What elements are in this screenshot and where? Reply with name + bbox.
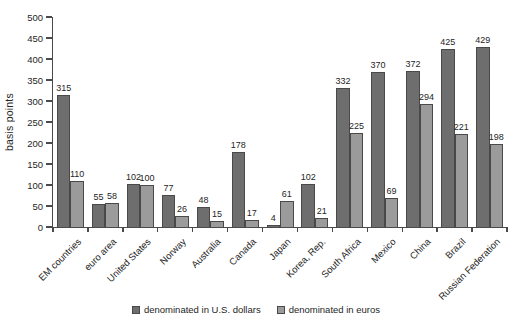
bar-usd	[301, 184, 315, 227]
value-label: 4	[271, 213, 276, 223]
y-axis-tick-label: 50	[32, 201, 43, 212]
x-axis-label: Brazil	[443, 236, 468, 261]
bar-chart: basis points EM countrieseuro areaUnited…	[0, 0, 512, 332]
bar-usd	[336, 88, 350, 227]
x-axis-tick	[52, 227, 53, 232]
y-axis-tick-label: 0	[38, 222, 43, 233]
y-axis-tick	[46, 163, 52, 164]
value-label: 61	[282, 189, 292, 199]
y-axis-tick-label: 450	[27, 33, 43, 44]
x-axis-labels: EM countrieseuro areaUnited StatesNorway…	[53, 227, 507, 297]
x-axis-tick	[402, 227, 403, 232]
y-axis-tick	[46, 16, 52, 17]
legend-swatch-icon	[277, 306, 285, 314]
x-axis-tick	[297, 227, 298, 232]
bar-usd	[441, 49, 455, 228]
bar-eur	[490, 144, 504, 227]
bar-usd	[127, 184, 141, 227]
x-axis-tick	[367, 227, 368, 232]
bar-eur	[140, 185, 154, 227]
value-label: 55	[94, 192, 104, 202]
value-label: 77	[163, 183, 173, 193]
y-axis-tick	[46, 226, 52, 227]
bar-eur	[385, 198, 399, 227]
bar-eur	[175, 216, 189, 227]
y-axis-title: basis points	[2, 17, 16, 227]
value-label: 315	[56, 83, 71, 93]
bar-eur	[315, 218, 329, 227]
y-axis-tick	[46, 205, 52, 206]
bar-usd	[232, 152, 246, 227]
x-axis-tick	[122, 227, 123, 232]
value-label: 294	[419, 92, 434, 102]
bar-usd	[92, 204, 106, 227]
value-label: 100	[140, 173, 155, 183]
value-label: 110	[70, 169, 84, 179]
x-axis-label: China	[407, 236, 432, 261]
value-label: 178	[231, 140, 246, 150]
x-axis-label: South Africa	[319, 236, 363, 280]
y-axis-tick	[46, 79, 52, 80]
bar-usd	[57, 95, 71, 227]
value-label: 225	[349, 121, 364, 131]
bar-eur	[105, 203, 119, 227]
value-label: 17	[247, 208, 257, 218]
value-label: 429	[475, 35, 490, 45]
y-axis-tick-label: 500	[27, 12, 43, 23]
bar-eur	[350, 133, 364, 228]
legend-item: denominated in euros	[277, 304, 380, 315]
y-axis-tick	[46, 100, 52, 101]
x-axis-tick	[87, 227, 88, 232]
y-axis-tick-label: 150	[27, 159, 43, 170]
value-label: 26	[177, 204, 187, 214]
y-axis-tick	[46, 37, 52, 38]
bar-eur	[245, 220, 259, 227]
bar-usd	[267, 225, 281, 227]
x-axis-tick	[192, 227, 193, 232]
value-label: 102	[301, 172, 316, 182]
x-axis-tick	[436, 227, 437, 232]
y-axis-tick	[46, 58, 52, 59]
x-axis-label: Mexico	[369, 236, 398, 265]
bar-eur	[70, 181, 84, 227]
legend-swatch-icon	[132, 306, 140, 314]
bar-eur	[280, 201, 294, 227]
bar-eur	[210, 221, 224, 227]
legend: denominated in U.S. dollarsdenominated i…	[0, 304, 512, 315]
bar-usd	[197, 207, 211, 227]
x-axis-label: euro area	[82, 236, 119, 273]
x-axis-tick	[332, 227, 333, 232]
x-axis-label: United States	[105, 236, 153, 284]
y-axis-tick	[46, 121, 52, 122]
value-label: 15	[212, 209, 222, 219]
value-label: 332	[336, 76, 351, 86]
bar-eur	[420, 104, 434, 227]
x-axis-label: Korea, Rep.	[284, 236, 328, 280]
x-axis-tick	[157, 227, 158, 232]
y-axis-tick-label: 250	[27, 117, 43, 128]
x-axis-label: Russian Federation	[436, 236, 502, 302]
x-axis-tick	[506, 227, 507, 232]
x-axis-tick	[262, 227, 263, 232]
y-axis-tick	[46, 142, 52, 143]
y-axis-tick-label: 300	[27, 96, 43, 107]
y-axis-tick	[46, 184, 52, 185]
y-axis-tick-label: 400	[27, 54, 43, 65]
legend-label: denominated in euros	[289, 304, 380, 315]
value-label: 21	[317, 206, 327, 216]
bar-usd	[406, 71, 420, 227]
bar-eur	[455, 134, 469, 227]
x-axis-label: Australia	[189, 236, 223, 270]
y-axis-tick-label: 350	[27, 75, 43, 86]
x-axis-label: Norway	[157, 236, 188, 267]
x-axis-tick	[471, 227, 472, 232]
value-label: 198	[489, 132, 504, 142]
y-axis-tick-label: 200	[27, 138, 43, 149]
bar-usd	[476, 47, 490, 227]
value-label: 221	[454, 122, 469, 132]
value-label: 58	[107, 191, 117, 201]
y-axis-tick-label: 100	[27, 180, 43, 191]
value-label: 48	[198, 195, 208, 205]
legend-item: denominated in U.S. dollars	[132, 304, 261, 315]
value-label: 69	[387, 186, 397, 196]
